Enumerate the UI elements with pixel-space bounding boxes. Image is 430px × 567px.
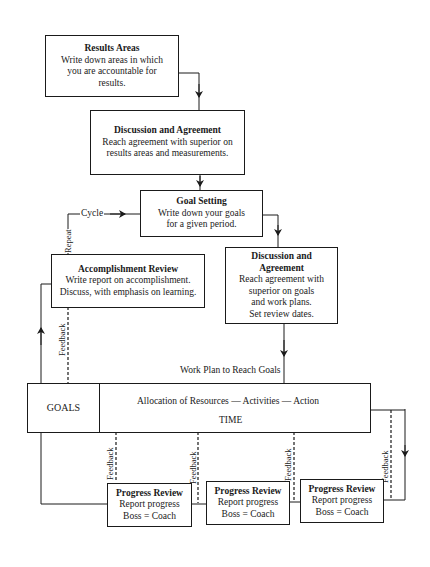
- allocation-label: Allocation of Resources — Activities — A…: [137, 396, 319, 407]
- repeat-label: Repeat: [63, 229, 73, 253]
- progress-review-line: Report progress: [218, 497, 278, 509]
- discussion-agreement-box-1: Discussion and Agreement Reach agreement…: [90, 110, 245, 175]
- discussion-agreement-box-2: Discussion and Agreement Reach agreement…: [225, 247, 338, 324]
- results-areas-title: Results Areas: [85, 43, 140, 55]
- progress-review-title: Progress Review: [116, 488, 183, 500]
- accomplishment-review-line: Write report on accomplishment.: [65, 275, 190, 287]
- discussion-agreement-2-line: superior on goals: [249, 286, 314, 298]
- results-areas-line: Write down areas in which: [61, 55, 163, 67]
- progress-review-box-2: Progress Review Report progress Boss = C…: [206, 481, 290, 525]
- work-plan-label: Work Plan to Reach Goals: [180, 365, 281, 376]
- discussion-agreement-2-title: Agreement: [259, 263, 304, 275]
- progress-review-line: Boss = Coach: [316, 507, 369, 519]
- accomplishment-review-line: Discuss, with emphasis on learning.: [60, 287, 197, 299]
- discussion-agreement-2-title: Discussion and: [251, 251, 311, 263]
- progress-review-box-1: Progress Review Report progress Boss = C…: [107, 483, 192, 527]
- feedback-label: Feedback: [188, 451, 198, 484]
- discussion-agreement-1-line: Reach agreement with superior on: [102, 137, 232, 149]
- results-areas-box: Results Areas Write down areas in which …: [45, 35, 179, 97]
- discussion-agreement-2-line: Reach agreement with: [239, 274, 324, 286]
- progress-review-title: Progress Review: [309, 484, 376, 496]
- discussion-agreement-1-line: results areas and measurements.: [107, 148, 229, 160]
- progress-review-title: Progress Review: [215, 486, 282, 498]
- goals-label: GOALS: [28, 384, 100, 432]
- results-areas-line: results.: [98, 78, 125, 90]
- goal-setting-line: for a given period.: [166, 219, 236, 231]
- discussion-agreement-2-line: and work plans.: [251, 297, 311, 309]
- goal-setting-title: Goal Setting: [176, 196, 226, 208]
- feedback-label: Feedback: [105, 447, 115, 480]
- progress-review-box-3: Progress Review Report progress Boss = C…: [300, 479, 384, 523]
- progress-review-line: Report progress: [312, 495, 372, 507]
- accomplishment-review-box: Accomplishment Review Write report on ac…: [51, 254, 205, 308]
- progress-review-line: Boss = Coach: [123, 511, 176, 523]
- discussion-agreement-2-line: Set review dates.: [249, 309, 314, 321]
- goal-setting-line: Write down your goals: [158, 208, 245, 220]
- cycle-label: Cycle: [80, 208, 104, 219]
- results-areas-line: you are accountable for: [67, 66, 156, 78]
- feedback-label: Feedback: [283, 448, 293, 481]
- accomplishment-review-title: Accomplishment Review: [78, 264, 178, 276]
- goal-setting-box: Goal Setting Write down your goals for a…: [140, 190, 263, 237]
- time-label: TIME: [219, 415, 242, 426]
- goals-timeline-box: GOALS: [27, 383, 371, 433]
- feedback-label: Feedback: [57, 323, 67, 356]
- progress-review-line: Boss = Coach: [222, 509, 275, 521]
- discussion-agreement-1-title: Discussion and Agreement: [114, 125, 221, 137]
- progress-review-line: Report progress: [119, 499, 179, 511]
